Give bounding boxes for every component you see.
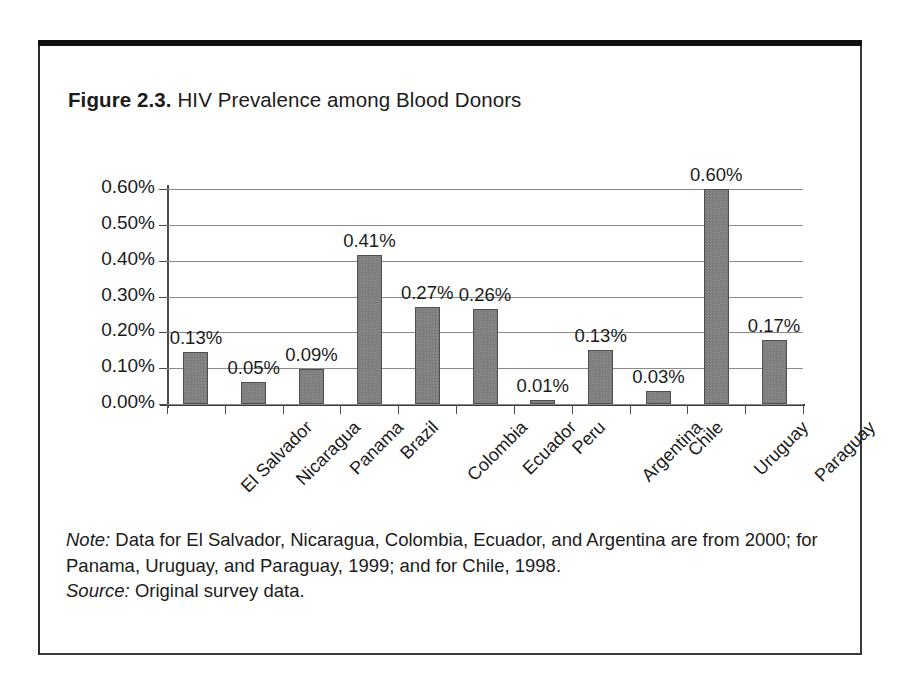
- bar[interactable]: [473, 309, 498, 404]
- figure-notes: Note: Data for El Salvador, Nicaragua, C…: [66, 527, 836, 604]
- bar[interactable]: [762, 340, 787, 405]
- figure-title: Figure 2.3. HIV Prevalence among Blood D…: [68, 88, 521, 112]
- note-text: Data for El Salvador, Nicaragua, Colombi…: [66, 529, 818, 576]
- bar[interactable]: [704, 189, 729, 404]
- note-line: Note: Data for El Salvador, Nicaragua, C…: [66, 527, 836, 578]
- bar[interactable]: [241, 382, 266, 404]
- figure-number: Figure 2.3.: [68, 88, 172, 111]
- source-line: Source: Original survey data.: [66, 578, 836, 604]
- plot-area: [167, 189, 803, 404]
- note-label: Note:: [66, 529, 110, 550]
- figure-title-text: HIV Prevalence among Blood Donors: [177, 88, 521, 111]
- bar[interactable]: [299, 369, 324, 404]
- gridline: [167, 404, 803, 405]
- bar[interactable]: [588, 350, 613, 404]
- bar[interactable]: [183, 352, 208, 404]
- source-text: Original survey data.: [130, 580, 305, 601]
- bar[interactable]: [415, 307, 440, 404]
- bar[interactable]: [530, 400, 555, 404]
- bar[interactable]: [646, 391, 671, 404]
- source-label: Source:: [66, 580, 130, 601]
- figure-top-rule: [38, 40, 862, 46]
- bar[interactable]: [357, 255, 382, 404]
